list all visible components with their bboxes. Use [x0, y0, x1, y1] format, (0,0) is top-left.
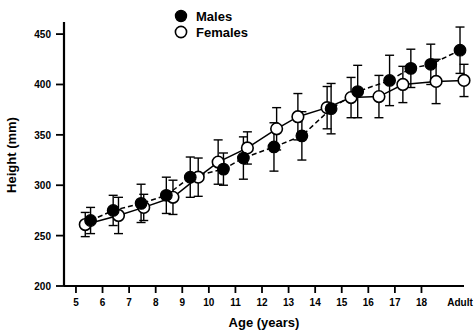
x-tick-label: 10: [203, 297, 215, 308]
chart-figure: 200250300350400450 567891011121314151617…: [0, 0, 475, 335]
data-point: [107, 205, 119, 217]
data-point: [135, 198, 147, 210]
y-tick-label: 450: [34, 29, 51, 40]
axes: [64, 22, 464, 286]
data-point: [238, 152, 250, 164]
y-tick-label: 400: [34, 79, 51, 90]
x-axis-title: Age (years): [229, 315, 300, 330]
y-axis-title: Height (mm): [4, 117, 19, 193]
y-tick-label: 350: [34, 130, 51, 141]
x-tick-label: 8: [153, 297, 159, 308]
legend-males-marker-icon: [175, 10, 186, 21]
data-point: [325, 103, 337, 115]
x-tick-label: 5: [73, 297, 79, 308]
x-tick-label: 16: [363, 297, 375, 308]
x-tick-label: Adult: [447, 297, 473, 308]
y-tick-label: 300: [34, 180, 51, 191]
y-axis-ticks: 200250300350400450: [34, 29, 64, 292]
legend-males-label: Males: [196, 9, 232, 24]
data-point: [430, 76, 442, 88]
data-point: [268, 141, 280, 153]
data-point: [384, 75, 396, 87]
legend-females-label: Females: [196, 25, 248, 40]
growth-chart-svg: 200250300350400450 567891011121314151617…: [0, 0, 475, 335]
legend: Males Females: [175, 9, 248, 40]
x-axis-ticks: 56789101112131415161718Adult: [73, 286, 473, 308]
data-point: [184, 171, 196, 183]
data-point: [271, 123, 283, 135]
y-tick-label: 200: [34, 281, 51, 292]
x-tick-label: 15: [336, 297, 348, 308]
x-tick-label: 17: [389, 297, 401, 308]
x-tick-label: 11: [230, 297, 241, 308]
data-point: [218, 163, 230, 175]
legend-females-marker-icon: [175, 26, 186, 37]
data-point: [454, 44, 466, 56]
x-tick-label: 9: [179, 297, 185, 308]
data-point: [458, 75, 470, 87]
data-point: [296, 130, 308, 142]
data-point: [161, 190, 173, 202]
data-point: [292, 111, 304, 123]
x-tick-label: 13: [283, 297, 295, 308]
data-point: [373, 91, 385, 103]
x-tick-label: 14: [310, 297, 322, 308]
data-point: [405, 63, 417, 75]
x-tick-label: 12: [256, 297, 268, 308]
data-point: [425, 59, 437, 71]
data-point: [85, 215, 97, 227]
y-tick-label: 250: [34, 231, 51, 242]
male-data-points: [85, 44, 466, 226]
x-tick-label: 7: [126, 297, 132, 308]
data-point: [352, 86, 364, 98]
data-point: [397, 79, 409, 91]
x-tick-label: 18: [416, 297, 428, 308]
x-tick-label: 6: [100, 297, 106, 308]
